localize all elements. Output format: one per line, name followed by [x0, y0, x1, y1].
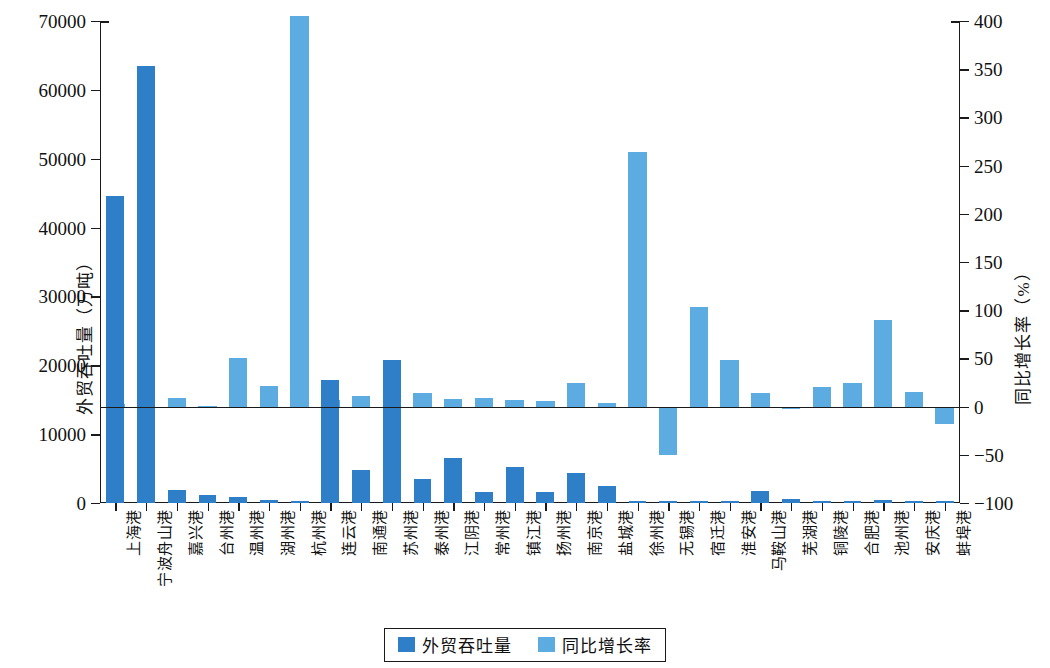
x-tick [760, 503, 761, 511]
x-axis-category-label: 泰州港 [430, 509, 451, 556]
bar-growth-rate [843, 383, 861, 406]
x-tick [668, 503, 669, 511]
bar-growth-rate [813, 387, 831, 406]
y-tick-right [960, 455, 969, 456]
bar-growth-rate [905, 392, 923, 406]
x-tick [361, 503, 362, 511]
x-axis-category-label: 宁波舟山港 [153, 509, 174, 587]
bar-growth-rate [567, 383, 585, 407]
bar-trade-volume [106, 196, 124, 503]
bar-trade-volume [567, 473, 585, 503]
bar-trade-volume [383, 360, 401, 503]
bar-growth-rate [475, 398, 493, 407]
y-tick-label-left: 0 [77, 494, 87, 513]
bar-trade-volume [751, 491, 769, 503]
x-tick [300, 503, 301, 511]
axis-cap-left [100, 21, 109, 23]
y-tick-left [91, 365, 100, 366]
x-axis-category-label: 淮安港 [737, 509, 758, 556]
bar-growth-rate [628, 152, 646, 406]
bar-growth-rate [352, 396, 370, 407]
y-tick-label-right: 350 [974, 60, 1003, 79]
y-tick-right [960, 214, 969, 215]
y-tick-label-right: 250 [974, 156, 1003, 175]
bar-growth-rate [874, 320, 892, 407]
x-tick [515, 503, 516, 511]
legend-item: 同比增长率 [538, 632, 652, 657]
bar-growth-rate [720, 360, 738, 406]
x-axis-category-label: 苏州港 [399, 509, 420, 556]
x-tick [453, 503, 454, 511]
x-axis-category-label: 镇江港 [522, 509, 543, 556]
x-axis-category-label: 芜湖港 [798, 509, 819, 556]
x-axis-category-label: 徐州港 [645, 509, 666, 556]
bar-trade-volume [414, 479, 432, 503]
y-tick-right [960, 503, 969, 504]
y-tick-left [91, 296, 100, 297]
x-axis-category-label: 合肥港 [860, 509, 881, 556]
y-tick-right [960, 117, 969, 118]
x-tick [607, 503, 608, 511]
x-tick [208, 503, 209, 511]
bar-growth-rate [505, 400, 523, 407]
bar-growth-rate [168, 398, 186, 407]
x-axis-category-label: 盐城港 [614, 509, 635, 556]
x-tick [914, 503, 915, 511]
x-tick [853, 503, 854, 511]
legend-label: 同比增长率 [562, 632, 652, 657]
x-axis-category-label: 南通港 [368, 509, 389, 556]
bar-growth-rate [444, 399, 462, 407]
x-axis-category-label: 台州港 [215, 509, 236, 556]
x-tick [883, 503, 884, 511]
x-axis-category-label: 马鞍山港 [767, 509, 788, 571]
bar-growth-rate [751, 393, 769, 406]
bar-trade-volume [137, 66, 155, 503]
bar-growth-rate [413, 393, 431, 406]
y-tick-right [960, 262, 969, 263]
plot-area: 010000200003000040000500006000070000 −10… [100, 21, 960, 503]
bar-trade-volume [444, 458, 462, 503]
y-axis-left-title: 外贸吞吐量（万吨） [71, 253, 96, 415]
x-axis-category-label: 温州港 [245, 509, 266, 556]
y-tick-right [960, 166, 969, 167]
bar-trade-volume [536, 492, 554, 503]
x-tick [545, 503, 546, 511]
bar-growth-rate [290, 16, 308, 406]
x-axis-category-label: 杭州港 [307, 509, 328, 556]
x-tick [638, 503, 639, 511]
y-tick-left [91, 503, 100, 504]
x-tick [330, 503, 331, 511]
x-axis-category-label: 安庆港 [921, 509, 942, 556]
y-tick-left [91, 21, 100, 22]
bar-growth-rate [935, 407, 953, 424]
y-tick-left [91, 90, 100, 91]
x-axis-category-label: 池州港 [890, 509, 911, 556]
x-axis-category-label: 南京港 [583, 509, 604, 556]
y-tick-label-right: 0 [974, 397, 984, 416]
x-axis-category-label: 扬州港 [552, 509, 573, 556]
chart-root: 外贸吞吐量（万吨） 同比增长率（%） 010000200003000040000… [0, 0, 1050, 668]
legend-label: 外贸吞吐量 [422, 632, 512, 657]
bar-trade-volume [168, 490, 186, 503]
x-axis-category-label: 铜陵港 [829, 509, 850, 556]
y-tick-label-right: 150 [974, 253, 1003, 272]
x-axis-category-label: 嘉兴港 [184, 509, 205, 556]
bar-trade-volume [199, 495, 217, 503]
y-tick-label-left: 60000 [39, 80, 87, 99]
y-tick-label-right: −100 [974, 494, 1013, 513]
x-axis-category-label: 江阴港 [460, 509, 481, 556]
x-tick [238, 503, 239, 511]
x-axis-category-label: 蚌埠港 [952, 509, 973, 556]
y-tick-label-left: 50000 [39, 149, 87, 168]
y-tick-left [91, 228, 100, 229]
y-tick-label-left: 70000 [39, 12, 87, 31]
bar-growth-rate [690, 307, 708, 406]
zero-growth-reference-line [100, 407, 960, 408]
x-tick [146, 503, 147, 511]
legend-swatch-icon [538, 637, 555, 652]
y-tick-right [960, 310, 969, 311]
y-tick-label-right: 300 [974, 108, 1003, 127]
legend-swatch-icon [398, 637, 415, 652]
bar-growth-rate [229, 358, 247, 406]
y-tick-right [960, 407, 969, 408]
